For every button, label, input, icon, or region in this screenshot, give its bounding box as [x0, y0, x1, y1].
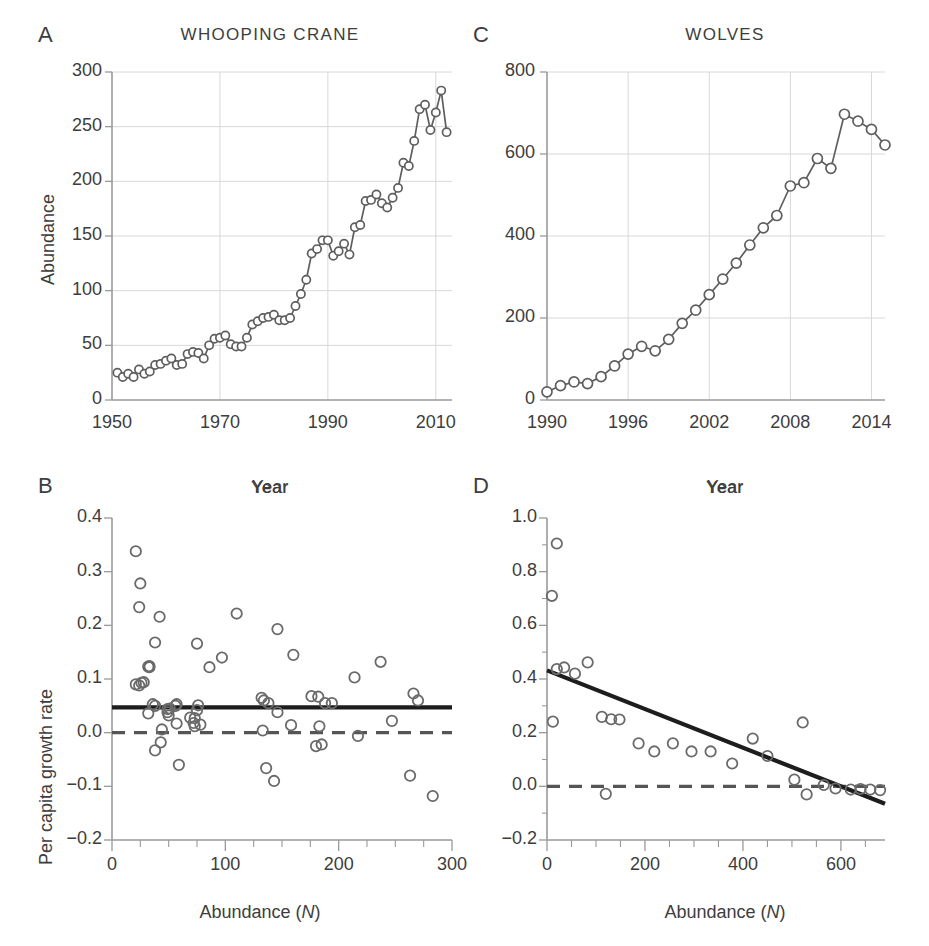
data-point	[314, 721, 324, 731]
panel-c-letter: C	[473, 22, 489, 48]
data-point	[178, 360, 186, 368]
series-line-wolves	[547, 114, 885, 392]
data-point	[421, 101, 429, 109]
panel-a: A WHOOPING CRANE Abundance Year 05010015…	[0, 0, 465, 470]
x-tick-label: 200	[600, 854, 690, 875]
panel-d-xlabel: Abundance (N)	[575, 902, 875, 923]
x-tick-label: 1970	[175, 412, 265, 433]
data-point	[727, 758, 737, 768]
data-point	[340, 240, 348, 248]
data-point	[705, 746, 715, 756]
y-tick-label: 400	[473, 224, 535, 245]
data-point	[150, 745, 160, 755]
data-point	[297, 290, 305, 298]
y-tick-label: 0.2	[471, 721, 537, 742]
data-point	[633, 738, 643, 748]
y-tick-label: 0.4	[36, 506, 102, 527]
data-point	[547, 591, 557, 601]
y-tick-label: 100	[40, 279, 102, 300]
y-tick-label: 150	[40, 224, 102, 245]
data-point	[596, 372, 606, 382]
panel-b-xlabel-symbol: N	[302, 902, 315, 922]
data-point	[569, 377, 579, 387]
data-point	[174, 760, 184, 770]
data-point	[243, 334, 251, 342]
y-tick-label: 0	[40, 388, 102, 409]
data-point	[306, 691, 316, 701]
data-point	[798, 717, 808, 727]
data-point	[437, 86, 445, 94]
data-point	[556, 381, 566, 391]
panel-d-title: Year	[575, 478, 875, 498]
y-tick-label: 300	[40, 60, 102, 81]
data-point	[302, 276, 310, 284]
y-tick-label: 600	[473, 142, 535, 163]
panel-a-letter: A	[38, 22, 53, 48]
data-point	[217, 652, 227, 662]
panel-d-xlabel-pre: Abundance (	[664, 902, 766, 922]
data-point	[349, 672, 359, 682]
y-tick-label: 0.8	[471, 560, 537, 581]
x-tick-label: 100	[180, 854, 270, 875]
data-point	[650, 346, 660, 356]
panel-b-xlabel-post: )	[315, 902, 321, 922]
data-point	[405, 162, 413, 170]
data-point	[677, 318, 687, 328]
panel-c: C WOLVES Year 02004006008001990199620022…	[465, 0, 929, 470]
data-point	[192, 638, 202, 648]
data-point	[704, 290, 714, 300]
data-point	[261, 763, 271, 773]
data-point	[389, 194, 397, 202]
data-point	[131, 546, 141, 556]
data-point	[637, 341, 647, 351]
y-tick-label: 0.4	[471, 667, 537, 688]
data-point	[272, 624, 282, 634]
data-point	[691, 305, 701, 315]
data-point	[748, 733, 758, 743]
data-point	[258, 725, 268, 735]
data-point	[375, 657, 385, 667]
x-tick-label: 0	[67, 854, 157, 875]
data-point	[256, 693, 266, 703]
panel-d-xlabel-symbol: N	[767, 902, 780, 922]
data-point	[758, 223, 768, 233]
data-point	[601, 789, 611, 799]
data-point	[812, 154, 822, 164]
data-point	[269, 776, 279, 786]
data-point	[686, 746, 696, 756]
data-point	[552, 538, 562, 548]
y-tick-label: 0.3	[36, 560, 102, 581]
x-tick-label: 1996	[583, 412, 673, 433]
y-tick-label: 250	[40, 115, 102, 136]
y-tick-label: 800	[473, 60, 535, 81]
data-point	[171, 718, 181, 728]
data-point	[772, 211, 782, 221]
data-point	[542, 387, 552, 397]
data-point	[432, 108, 440, 116]
data-point	[718, 274, 728, 284]
data-point	[865, 784, 875, 794]
y-tick-label: 0.0	[471, 774, 537, 795]
data-point	[582, 657, 592, 667]
data-point	[135, 578, 145, 588]
data-point	[221, 331, 229, 339]
data-point	[649, 746, 659, 756]
data-point	[134, 602, 144, 612]
data-point	[129, 373, 137, 381]
x-tick-label: 1990	[502, 412, 592, 433]
data-point	[789, 774, 799, 784]
x-tick-label: 0	[502, 854, 592, 875]
y-tick-label: −0.1	[36, 774, 102, 795]
x-tick-label: 2014	[826, 412, 916, 433]
x-tick-label: 1950	[67, 412, 157, 433]
data-point	[559, 662, 569, 672]
data-point	[150, 637, 160, 647]
data-point	[324, 236, 332, 244]
x-tick-label: 400	[698, 854, 788, 875]
data-point	[313, 245, 321, 253]
y-tick-label: 1.0	[471, 506, 537, 527]
data-point	[410, 137, 418, 145]
y-tick-label: −0.2	[471, 828, 537, 849]
data-point	[731, 258, 741, 268]
x-tick-label: 200	[294, 854, 384, 875]
